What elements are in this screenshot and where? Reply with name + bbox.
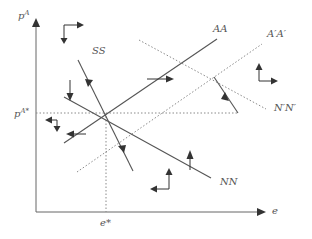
ss-curve-label: SS [92,46,106,56]
ss-lower-arrow-icon [118,145,126,153]
e-star-label: e* [100,218,111,228]
y-axis [32,18,40,212]
quadrant-right-indicator [256,63,279,85]
a-prime-a-prime-label: A′A′ [267,29,286,39]
nn-curve-label: NN [220,177,238,187]
x-axis-label: e [272,206,278,216]
quadrant-bottom-indicator [150,168,173,193]
p-star-label: pA* [14,108,29,119]
ss-curve [78,60,133,171]
y-axis-arrow-icon [32,18,40,27]
n-prime-n-prime-curve [139,40,266,109]
quadrant-top-left-indicator [61,22,85,45]
aa-curve [64,39,217,143]
y-axis-label: pA [18,10,29,21]
aa-right-arrow [147,76,174,83]
x-axis-arrow-icon [257,208,266,216]
x-axis [36,208,266,216]
ss-prime-arrow-icon [221,92,229,101]
y-axis-label-sup: A [24,9,29,17]
phase-diagram: pA pA* e e* SS AA A′A′ N′N′ NN [0,0,312,239]
aa-curve-label: AA [213,24,227,34]
p-star-label-sup: A* [20,107,29,115]
quadrant-left-indicator [45,117,61,133]
n-prime-n-prime-label: N′N′ [274,103,296,113]
nn-down-arrow [67,80,74,101]
equilibrium-guides [36,113,238,212]
ss-upper-arrow-icon [85,79,93,87]
nn-up-arrow [187,150,194,170]
aa-left-arrow [66,131,86,138]
